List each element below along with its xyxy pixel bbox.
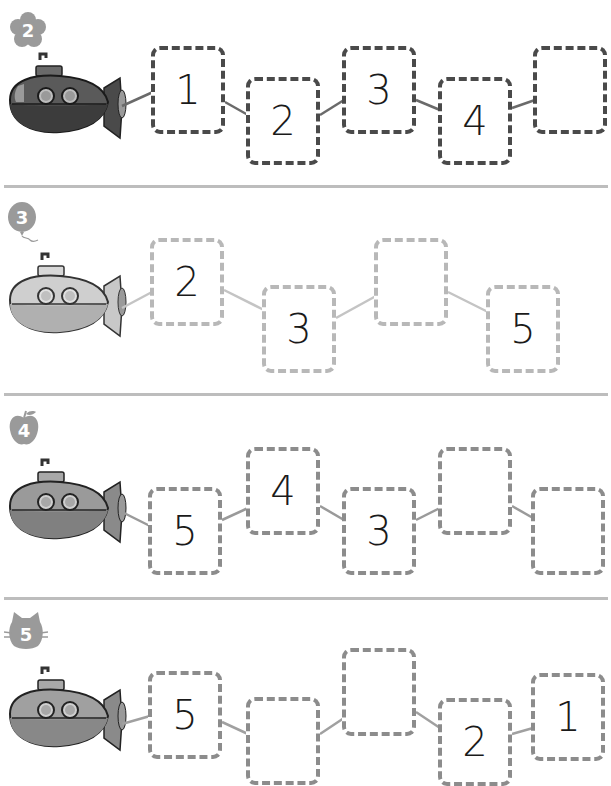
- number-box: 5: [148, 487, 222, 575]
- answer-box-empty[interactable]: [342, 648, 416, 736]
- number-box: 2: [150, 238, 224, 326]
- answer-box-empty[interactable]: [246, 697, 320, 785]
- number-box: 3: [342, 487, 416, 575]
- number-box: 2: [438, 698, 512, 786]
- number-box: 5: [486, 285, 560, 373]
- answer-box-empty[interactable]: [438, 447, 512, 535]
- number-box: 3: [342, 46, 416, 134]
- number-box: 4: [438, 77, 512, 165]
- number-box: 4: [246, 447, 320, 535]
- number-box: 2: [246, 77, 320, 165]
- answer-box-empty[interactable]: [374, 238, 448, 326]
- answer-box-empty[interactable]: [531, 487, 605, 575]
- answer-box-empty[interactable]: [533, 46, 607, 134]
- number-box: 1: [531, 673, 605, 761]
- number-box: 5: [148, 671, 222, 759]
- number-box: 1: [151, 46, 225, 134]
- number-box: 3: [262, 285, 336, 373]
